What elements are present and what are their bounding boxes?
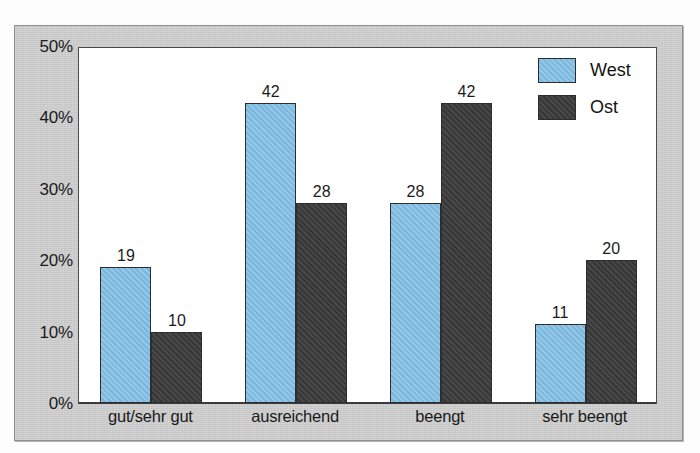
legend-label-west: West: [590, 60, 631, 81]
bar-west-3: 11: [535, 324, 586, 403]
bar-value-label: 42: [262, 83, 280, 101]
bar-value-label: 10: [168, 312, 186, 330]
bar-west-2: 28: [390, 203, 441, 403]
y-tick-label: 20%: [40, 251, 73, 271]
plot-area: 1910422828421120 West Ost: [78, 47, 657, 404]
bar-value-label: 11: [552, 304, 569, 322]
bar-value-label: 20: [602, 240, 620, 258]
legend-swatch-west: [538, 58, 576, 83]
y-tick-label: 40%: [40, 108, 73, 128]
x-tick-label: sehr beengt: [542, 407, 627, 426]
bar-value-label: 28: [406, 183, 424, 201]
bar-ost-3: 20: [586, 260, 637, 403]
bar-ost-1: 28: [296, 203, 347, 403]
chart-frame: 0%10%20%30%40%50% 1910422828421120 West …: [14, 25, 683, 441]
y-axis: 0%10%20%30%40%50%: [15, 26, 73, 442]
x-tick-label: beengt: [415, 407, 464, 426]
x-axis: gut/sehr gutausreichendbeengtsehr beengt: [78, 405, 657, 435]
legend-label-ost: Ost: [590, 97, 618, 118]
bar-west-0: 19: [100, 267, 151, 403]
bar-ost-2: 42: [441, 103, 492, 403]
bar-value-label: 42: [457, 83, 475, 101]
y-tick-label: 0%: [49, 394, 73, 414]
legend-swatch-ost: [538, 95, 576, 120]
bar-west-1: 42: [245, 103, 296, 403]
chart-legend: West Ost: [538, 57, 631, 131]
legend-item-ost: Ost: [538, 94, 631, 120]
legend-item-west: West: [538, 57, 631, 83]
x-tick-label: gut/sehr gut: [108, 407, 193, 426]
y-tick-label: 10%: [40, 323, 73, 343]
bar-value-label: 19: [117, 247, 135, 265]
x-tick-label: ausreichend: [251, 407, 339, 426]
y-tick-label: 50%: [40, 37, 73, 57]
bar-value-label: 28: [313, 183, 331, 201]
scanned-page: 0%10%20%30%40%50% 1910422828421120 West …: [0, 0, 700, 453]
bar-ost-0: 10: [151, 332, 202, 403]
y-tick-label: 30%: [40, 180, 73, 200]
